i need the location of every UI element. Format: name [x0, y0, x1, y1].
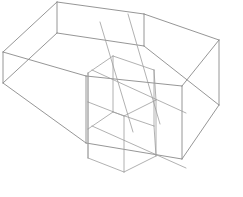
large-top-edge-back — [57, 2, 144, 14]
large-hexagonal-prism — [3, 2, 219, 159]
small-top-edge-back-right — [113, 56, 154, 70]
small-prism-vertical-edges — [88, 56, 156, 172]
large-top-edge-back-right — [144, 14, 219, 40]
small-top-edge-back-left — [88, 56, 113, 73]
large-top-edge-back-left — [3, 2, 57, 52]
cross-line-upper-span — [92, 70, 186, 113]
small-bottom-edge-front-right — [124, 156, 156, 172]
small-bottom-edge-back-right — [113, 112, 154, 126]
intersection-lines — [92, 14, 186, 168]
small-top-edge-front-right — [124, 100, 156, 116]
large-bottom-edge-front — [86, 143, 182, 159]
large-bottom-edge-back-right — [144, 46, 219, 105]
large-bottom-edge-back — [57, 33, 144, 46]
cross-line-lower-span — [92, 126, 186, 168]
small-bottom-edge-back-left — [88, 112, 113, 129]
small-prism-bottom-rim — [88, 112, 156, 172]
large-top-edge-front-right — [182, 40, 219, 86]
large-bottom-edge-front-right — [182, 105, 219, 159]
small-prism-top-rim — [88, 56, 156, 116]
large-prism-top-rim — [3, 2, 219, 86]
cross-line-left-diagonal — [100, 22, 133, 132]
large-top-edge-front — [86, 76, 182, 86]
large-prism-bottom-rim — [3, 33, 219, 159]
small-hexagonal-prism — [88, 56, 156, 172]
small-bottom-edge-front-left — [88, 158, 124, 172]
large-top-edge-front-left — [3, 52, 86, 76]
figure-canvas: Wireframe Hexagonal Prisms — [0, 0, 243, 197]
large-bottom-edge-back-left — [3, 33, 57, 83]
wireframe-figure: Wireframe Hexagonal Prisms — [0, 0, 243, 197]
large-bottom-edge-front-left — [3, 83, 86, 143]
